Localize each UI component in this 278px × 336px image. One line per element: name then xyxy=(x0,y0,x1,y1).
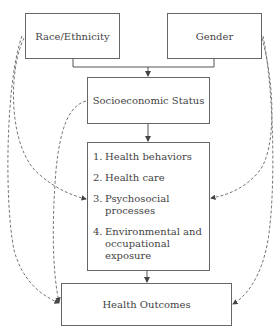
list-item: 4. Environmental and occupational exposu… xyxy=(93,226,205,262)
mediating-pathways-box: 1. Health behaviors 2. Health care 3. Ps… xyxy=(87,142,210,271)
list-text: Health behaviors xyxy=(105,151,205,163)
socioeconomic-status-box: Socioeconomic Status xyxy=(87,77,210,124)
list-number: 3. xyxy=(93,193,105,217)
list-number: 2. xyxy=(93,172,105,184)
socioeconomic-status-label: Socioeconomic Status xyxy=(93,95,205,106)
race-ethnicity-label: Race/Ethnicity xyxy=(35,31,109,42)
gender-label: Gender xyxy=(196,31,233,42)
gender-box: Gender xyxy=(167,13,262,59)
health-outcomes-box: Health Outcomes xyxy=(61,283,232,326)
health-outcomes-label: Health Outcomes xyxy=(102,299,190,310)
race-ethnicity-box: Race/Ethnicity xyxy=(25,13,120,59)
list-text: Psychosocial processes xyxy=(105,193,205,217)
list-text: Health care xyxy=(105,172,205,184)
list-item: 3. Psychosocial processes xyxy=(93,193,205,217)
list-item: 1. Health behaviors xyxy=(93,151,205,163)
list-item: 2. Health care xyxy=(93,172,205,184)
list-number: 1. xyxy=(93,151,105,163)
list-number: 4. xyxy=(93,226,105,262)
list-text: Environmental and occupational exposure xyxy=(105,226,205,262)
